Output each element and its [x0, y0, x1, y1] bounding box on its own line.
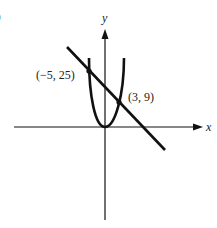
graph-figure: ) x y (−5, 25) (3, 9): [0, 0, 217, 228]
y-axis-arrow-icon: [102, 29, 109, 39]
y-axis-label: y: [101, 11, 108, 25]
intersection-point-right: [116, 99, 121, 104]
x-axis-label: x: [205, 120, 212, 134]
point-label-left: (−5, 25): [36, 68, 75, 82]
part-label: ): [0, 10, 1, 23]
parabola-curve: [89, 58, 124, 127]
point-label-right: (3, 9): [128, 90, 154, 104]
intersection-point-left: [86, 68, 91, 73]
x-axis-arrow-icon: [193, 124, 203, 131]
